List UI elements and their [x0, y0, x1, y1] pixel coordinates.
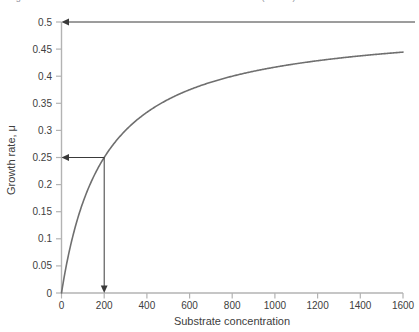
y-tick-label: 0.15: [33, 206, 53, 217]
x-tick-label: 0: [59, 300, 65, 311]
figure-caption-text: Figure 1: Growth rate as a function of s…: [8, 0, 296, 2]
y-tick-label: 0.35: [33, 98, 53, 109]
x-tick-label: 400: [139, 300, 156, 311]
y-tick-label: 0.2: [38, 179, 52, 190]
asymptote-arrowhead-icon: [62, 19, 70, 26]
y-tick-label: 0.05: [33, 260, 53, 271]
y-axis-tick-labels: 0.5 0.45 0.4 0.35 0.3 0.25 0.2 0.15 0.1 …: [33, 17, 53, 299]
monod-growth-chart-figure: Figure 1: Growth rate as a function of s…: [0, 0, 419, 332]
y-tick-label: 0.3: [38, 125, 52, 136]
y-tick-label: 0.4: [38, 71, 52, 82]
half-saturation-horizontal-arrowhead-icon: [62, 154, 70, 161]
y-tick-label: 0: [46, 288, 52, 299]
annotation-half-saturation-horizontal: [62, 154, 105, 161]
y-tick-label: 0.45: [33, 44, 53, 55]
x-tick-label: 1000: [264, 300, 287, 311]
y-tick-label: 0.25: [33, 152, 53, 163]
half-saturation-vertical-arrowhead-icon: [101, 286, 108, 294]
annotation-mu-max-asymptote: [62, 19, 416, 26]
x-axis-title: Substrate concentration: [174, 315, 290, 327]
x-tick-label: 600: [181, 300, 198, 311]
figure-caption-clipped: Figure 1: Growth rate as a function of s…: [0, 0, 419, 7]
chart-plot-area: 0.5 0.45 0.4 0.35 0.3 0.25 0.2 0.15 0.1 …: [0, 0, 419, 332]
y-tick-label: 0.5: [38, 17, 52, 28]
x-tick-label: 800: [224, 300, 241, 311]
y-axis-ticks: [56, 22, 62, 293]
x-tick-label: 1200: [306, 300, 329, 311]
x-axis-group: 0 200 400 600 800 1000 1200 1400 1600 Su…: [59, 293, 415, 327]
x-tick-label: 200: [96, 300, 113, 311]
x-tick-label: 1400: [349, 300, 372, 311]
x-axis-ticks: [62, 293, 404, 299]
y-axis-group: 0.5 0.45 0.4 0.35 0.3 0.25 0.2 0.15 0.1 …: [5, 17, 62, 299]
x-axis-tick-labels: 0 200 400 600 800 1000 1200 1400 1600: [59, 300, 415, 311]
y-axis-title: Growth rate, μ: [5, 125, 17, 195]
annotation-half-saturation-vertical: [101, 158, 108, 294]
y-tick-label: 0.1: [38, 233, 52, 244]
x-tick-label: 1600: [392, 300, 415, 311]
growth-rate-curve: [62, 52, 404, 293]
